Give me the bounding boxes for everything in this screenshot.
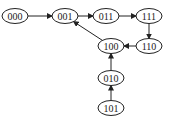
state-diagram: 000001011111110100010101 [0,0,172,126]
edge-100-to-001 [74,22,103,41]
node-001: 001 [52,9,78,24]
node-label: 110 [142,41,157,52]
node-label: 111 [142,11,156,22]
node-101: 101 [98,101,124,116]
node-111: 111 [136,9,162,24]
node-label: 010 [104,73,119,84]
node-110: 110 [136,39,162,54]
node-100: 100 [98,39,124,54]
node-010: 010 [98,71,124,86]
node-label: 101 [104,103,119,114]
node-000: 000 [2,9,28,24]
node-label: 011 [99,11,114,22]
node-011: 011 [93,9,119,24]
node-label: 000 [8,11,23,22]
node-label: 100 [104,41,119,52]
node-label: 001 [58,11,73,22]
